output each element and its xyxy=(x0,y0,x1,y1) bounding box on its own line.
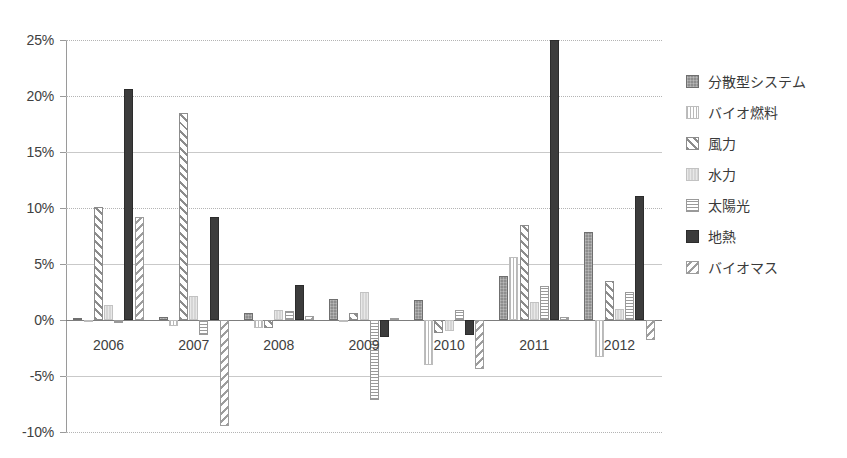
bar xyxy=(434,320,443,333)
chart-legend: 分散型システムバイオ燃料風力水力太陽光地熱バイオマス xyxy=(686,66,847,283)
bar xyxy=(220,320,229,426)
x-axis-tick-label: 2008 xyxy=(239,337,319,353)
bar xyxy=(264,320,273,328)
plot-area: 25%20%15%10%5%0%-5%-10% 2006200720082009… xyxy=(0,0,675,458)
y-axis-tick-label: 25% xyxy=(4,33,54,47)
bar xyxy=(114,320,123,323)
bar xyxy=(584,232,593,320)
bar xyxy=(625,292,634,320)
y-axis-tick xyxy=(60,432,66,433)
legend-swatch-icon xyxy=(686,261,699,274)
bar xyxy=(465,320,474,335)
bar xyxy=(199,320,208,335)
legend-item[interactable]: バイオマス xyxy=(686,252,847,283)
bar xyxy=(189,296,198,320)
x-axis-tick-label: 2006 xyxy=(69,337,149,353)
y-axis-tick-label: 15% xyxy=(4,145,54,159)
bar xyxy=(339,320,348,322)
bars-layer xyxy=(66,40,662,432)
bar xyxy=(509,257,518,320)
legend-swatch-icon xyxy=(686,137,699,150)
x-axis-tick-label: 2012 xyxy=(579,337,659,353)
legend-swatch-icon xyxy=(686,199,699,212)
bar xyxy=(520,225,529,320)
bar xyxy=(124,89,133,320)
bar xyxy=(84,320,93,322)
legend-label: 地熱 xyxy=(708,229,736,245)
x-axis-tick-label: 2010 xyxy=(409,337,489,353)
bar xyxy=(635,196,644,320)
legend-label: 風力 xyxy=(708,136,736,152)
bar xyxy=(285,311,294,320)
legend-item[interactable]: 水力 xyxy=(686,159,847,190)
legend-label: バイオマス xyxy=(708,260,778,276)
legend-swatch-icon xyxy=(686,106,699,119)
bar xyxy=(445,320,454,331)
y-axis-tick-label: 0% xyxy=(4,313,54,327)
legend-label: 太陽光 xyxy=(708,198,750,214)
gridline xyxy=(66,432,662,433)
bar xyxy=(210,217,219,320)
x-axis-tick-label: 2009 xyxy=(324,337,404,353)
bar xyxy=(329,299,338,320)
bar xyxy=(360,292,369,320)
bar xyxy=(349,313,358,320)
bar xyxy=(159,317,168,320)
legend-label: 分散型システム xyxy=(708,74,806,90)
x-axis-tick-label: 2007 xyxy=(154,337,234,353)
legend-swatch-icon xyxy=(686,75,699,88)
legend-item[interactable]: 分散型システム xyxy=(686,66,847,97)
bar xyxy=(179,113,188,320)
bar xyxy=(560,317,569,320)
legend-item[interactable]: 太陽光 xyxy=(686,190,847,221)
chart-screenshot: 25%20%15%10%5%0%-5%-10% 2006200720082009… xyxy=(0,0,847,458)
bar xyxy=(499,276,508,320)
legend-label: バイオ燃料 xyxy=(708,105,778,121)
legend-item[interactable]: 地熱 xyxy=(686,221,847,252)
bar xyxy=(370,320,379,400)
bar xyxy=(94,207,103,320)
bar xyxy=(380,320,389,337)
x-axis-tick-label: 2011 xyxy=(494,337,574,353)
legend-item[interactable]: バイオ燃料 xyxy=(686,97,847,128)
bar xyxy=(244,313,253,320)
y-axis-tick-label: -10% xyxy=(4,425,54,439)
bar xyxy=(455,310,464,320)
bar xyxy=(540,286,549,320)
legend-swatch-icon xyxy=(686,168,699,181)
bar xyxy=(414,300,423,320)
bar xyxy=(605,281,614,320)
bar xyxy=(530,302,539,320)
bar xyxy=(390,318,399,320)
y-axis-tick-label: 5% xyxy=(4,257,54,271)
bar xyxy=(73,318,82,320)
y-axis-tick-label: 20% xyxy=(4,89,54,103)
bar xyxy=(135,217,144,320)
y-axis-tick-label: 10% xyxy=(4,201,54,215)
bar xyxy=(169,320,178,326)
legend-label: 水力 xyxy=(708,167,736,183)
legend-item[interactable]: 風力 xyxy=(686,128,847,159)
bar xyxy=(254,320,263,328)
legend-swatch-icon xyxy=(686,230,699,243)
bar xyxy=(295,285,304,320)
bar xyxy=(550,40,559,320)
bar xyxy=(104,305,113,320)
bar xyxy=(615,309,624,320)
bar xyxy=(305,316,314,320)
bar xyxy=(274,310,283,320)
y-axis-tick-label: -5% xyxy=(4,369,54,383)
